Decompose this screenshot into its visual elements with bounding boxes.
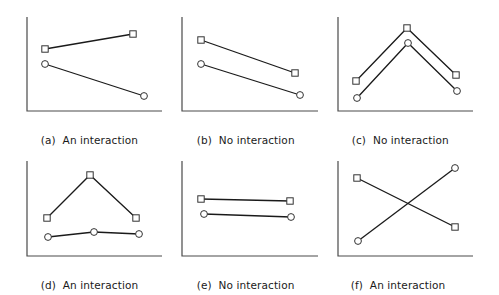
series-line-circle <box>45 64 144 96</box>
circle-marker-icon <box>297 92 304 99</box>
square-marker-icon <box>292 70 298 76</box>
panel-a <box>27 17 162 111</box>
caption-tag: (b) <box>197 134 212 146</box>
series-line-square <box>45 34 133 49</box>
square-marker-icon <box>452 224 458 230</box>
square-marker-icon <box>198 37 204 43</box>
caption-text: No interaction <box>219 134 295 146</box>
circle-marker-icon <box>201 211 208 218</box>
circle-marker-icon <box>354 95 361 102</box>
square-marker-icon <box>404 25 410 31</box>
caption-tag: (c) <box>352 134 366 146</box>
caption-e: (e) No interaction <box>183 267 294 295</box>
caption-tag: (d) <box>41 279 56 291</box>
series-line-circle <box>201 64 300 95</box>
square-marker-icon <box>198 196 204 202</box>
series-line-square <box>47 175 136 218</box>
square-marker-icon <box>130 31 136 37</box>
series-line-square <box>357 178 455 227</box>
circle-marker-icon <box>141 93 148 100</box>
axes <box>27 161 162 256</box>
square-marker-icon <box>133 215 139 221</box>
square-marker-icon <box>87 172 93 178</box>
caption-a: (a) An interaction <box>27 122 138 158</box>
caption-f: (f) An interaction <box>337 267 445 295</box>
square-marker-icon <box>44 215 50 221</box>
series-line-circle <box>358 168 455 241</box>
circle-marker-icon <box>45 234 52 241</box>
panel-e <box>182 161 318 256</box>
panel-d <box>27 161 162 256</box>
series-line-circle <box>204 214 291 217</box>
panel-c <box>338 17 473 111</box>
panel-f <box>338 161 473 256</box>
circle-marker-icon <box>355 238 362 245</box>
circle-marker-icon <box>42 61 49 68</box>
series-line-circle <box>357 43 457 98</box>
caption-b: (b) No interaction <box>183 122 295 158</box>
caption-text: An interaction <box>370 279 445 291</box>
series-line-square <box>201 199 290 201</box>
square-marker-icon <box>42 46 48 52</box>
circle-marker-icon <box>405 40 412 47</box>
axes <box>182 161 318 256</box>
caption-d: (d) An interaction <box>27 267 138 295</box>
caption-c: (c) No interaction <box>338 122 449 158</box>
caption-tag: (e) <box>197 279 212 291</box>
square-marker-icon <box>287 198 293 204</box>
square-marker-icon <box>453 72 459 78</box>
circle-marker-icon <box>452 165 459 172</box>
panel-b <box>182 17 318 111</box>
series-line-square <box>356 28 456 81</box>
square-marker-icon <box>354 175 360 181</box>
caption-text: No interaction <box>373 134 449 146</box>
circle-marker-icon <box>198 61 205 68</box>
circle-marker-icon <box>91 229 98 236</box>
caption-text: An interaction <box>63 134 138 146</box>
caption-text: An interaction <box>63 279 138 291</box>
caption-tag: (a) <box>41 134 56 146</box>
caption-tag: (f) <box>351 279 363 291</box>
caption-text: No interaction <box>219 279 295 291</box>
circle-marker-icon <box>454 88 461 95</box>
circle-marker-icon <box>136 231 143 238</box>
square-marker-icon <box>353 78 359 84</box>
circle-marker-icon <box>288 214 295 221</box>
